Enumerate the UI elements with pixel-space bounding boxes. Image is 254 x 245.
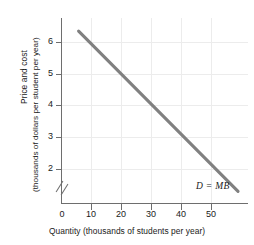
x-axis-title: Quantity (thousands of students per year… [0, 226, 254, 236]
gridline-vertical-10 [91, 18, 92, 203]
x-tick-label-40: 40 [168, 209, 194, 219]
gridline-horizontal-5 [62, 74, 248, 75]
y-tick-label-3: 3 [33, 131, 53, 141]
gridline-vertical-30 [151, 18, 152, 203]
y-tick-label-6: 6 [33, 36, 53, 46]
x-axis-line [61, 203, 248, 204]
gridline-vertical-20 [121, 18, 122, 203]
y-tick-2 [56, 169, 62, 170]
y-tick-5 [56, 74, 62, 75]
y-axis-line [61, 18, 62, 204]
demand-marginal-benefit-chart: Price and cost (thousands of dollars per… [0, 0, 254, 245]
y-tick-3 [56, 137, 62, 138]
x-tick-label-30: 30 [138, 209, 164, 219]
gridline-vertical-40 [181, 18, 182, 203]
y-tick-label-4: 4 [33, 99, 53, 109]
y-axis-break-icon [55, 178, 71, 198]
y-tick-4 [56, 105, 62, 106]
x-tick-label-50: 50 [198, 209, 224, 219]
x-tick-label-10: 10 [78, 209, 104, 219]
x-tick-label-20: 20 [108, 209, 134, 219]
gridline-vertical-50 [211, 18, 212, 203]
gridline-horizontal-6 [62, 42, 248, 43]
gridline-horizontal-3 [62, 137, 248, 138]
y-tick-6 [56, 42, 62, 43]
y-axis-title-primary: Price and cost [19, 50, 29, 104]
y-tick-label-5: 5 [33, 68, 53, 78]
y-tick-label-2: 2 [33, 163, 53, 173]
plot-area [62, 18, 248, 203]
gridline-horizontal-2 [62, 169, 248, 170]
demand-curve-label: D = MB [196, 181, 230, 191]
gridline-horizontal-4 [62, 105, 248, 106]
x-tick-label-0: 0 [49, 209, 75, 219]
